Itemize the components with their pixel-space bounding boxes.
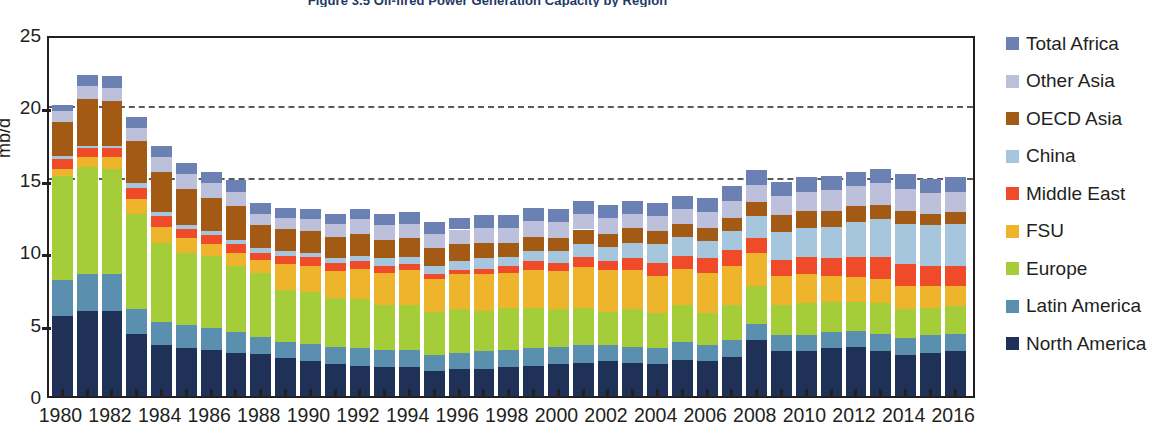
- x-tick-label: 1980: [39, 404, 82, 427]
- bar-2000[interactable]: [548, 34, 569, 396]
- bar-segment: [672, 269, 693, 305]
- bar-segment: [846, 206, 867, 222]
- bar-1981[interactable]: [77, 34, 98, 396]
- bar-1996[interactable]: [449, 34, 470, 396]
- legend-item[interactable]: FSU: [1006, 213, 1158, 251]
- bar-2016[interactable]: [945, 34, 966, 396]
- bar-segment: [250, 203, 271, 213]
- bar-2008[interactable]: [746, 34, 767, 396]
- bar-segment: [771, 232, 792, 260]
- y-tick-label: 0: [0, 387, 41, 409]
- bar-segment: [697, 212, 718, 228]
- x-tick-label: 2014: [882, 404, 925, 427]
- bar-segment: [350, 256, 371, 262]
- bar-1995[interactable]: [424, 34, 445, 396]
- bar-1997[interactable]: [474, 34, 495, 396]
- x-tick-mark: [805, 389, 808, 398]
- legend-item[interactable]: OECD Asia: [1006, 100, 1158, 138]
- bar-1986[interactable]: [201, 34, 222, 396]
- bar-segment: [226, 192, 247, 206]
- bar-1984[interactable]: [151, 34, 172, 396]
- bar-segment: [722, 250, 743, 266]
- bar-1990[interactable]: [300, 34, 321, 396]
- bar-2014[interactable]: [895, 34, 916, 396]
- bar-segment: [697, 258, 718, 272]
- bar-2004[interactable]: [647, 34, 668, 396]
- bar-segment: [350, 348, 371, 365]
- bar-segment: [895, 309, 916, 338]
- bar-1988[interactable]: [250, 34, 271, 396]
- bar-segment: [771, 260, 792, 276]
- bar-2001[interactable]: [573, 34, 594, 396]
- bar-2013[interactable]: [870, 34, 891, 396]
- bar-segment: [598, 270, 619, 312]
- bar-segment: [449, 274, 470, 309]
- bar-1993[interactable]: [374, 34, 395, 396]
- bar-segment: [920, 179, 941, 193]
- bar-segment: [647, 203, 668, 216]
- bar-segment: [226, 180, 247, 192]
- y-tick-mark: [42, 182, 51, 185]
- bar-segment: [548, 263, 569, 272]
- bar-1992[interactable]: [350, 34, 371, 396]
- x-tick-mark: [110, 389, 113, 398]
- bar-2011[interactable]: [821, 34, 842, 396]
- bar-segment: [771, 276, 792, 305]
- bar-1994[interactable]: [399, 34, 420, 396]
- legend-item[interactable]: Latin America: [1006, 288, 1158, 326]
- legend-item[interactable]: Middle East: [1006, 175, 1158, 213]
- bar-2002[interactable]: [598, 34, 619, 396]
- bar-segment: [523, 308, 544, 349]
- bar-1998[interactable]: [498, 34, 519, 396]
- bar-2015[interactable]: [920, 34, 941, 396]
- bar-2006[interactable]: [697, 34, 718, 396]
- bar-segment: [201, 244, 222, 256]
- bar-segment: [325, 224, 346, 237]
- legend-item[interactable]: Europe: [1006, 250, 1158, 288]
- bar-segment: [300, 253, 321, 257]
- bar-segment: [350, 219, 371, 233]
- bar-segment: [796, 211, 817, 228]
- x-tick-mark: [482, 389, 485, 398]
- x-tick-mark: [433, 389, 436, 398]
- bar-segment: [151, 243, 172, 323]
- bar-2009[interactable]: [771, 34, 792, 396]
- bar-segment: [325, 258, 346, 262]
- bar-segment: [598, 234, 619, 247]
- bar-segment: [746, 185, 767, 202]
- bar-segment: [622, 270, 643, 309]
- bar-1980[interactable]: [52, 34, 73, 396]
- bar-2003[interactable]: [622, 34, 643, 396]
- bar-1983[interactable]: [126, 34, 147, 396]
- legend-item[interactable]: Other Asia: [1006, 63, 1158, 101]
- bar-1999[interactable]: [523, 34, 544, 396]
- bar-segment: [102, 169, 123, 275]
- y-tick-label: 5: [0, 315, 41, 337]
- bar-segment: [474, 215, 495, 228]
- x-tick-mark: [383, 389, 386, 398]
- bar-1989[interactable]: [275, 34, 296, 396]
- bar-2005[interactable]: [672, 34, 693, 396]
- legend-item[interactable]: North America: [1006, 325, 1158, 363]
- legend-item[interactable]: China: [1006, 138, 1158, 176]
- bar-1987[interactable]: [226, 34, 247, 396]
- bar-segment: [77, 75, 98, 87]
- bar-segment: [796, 303, 817, 335]
- bar-1985[interactable]: [176, 34, 197, 396]
- bar-segment: [399, 350, 420, 367]
- bar-segment: [945, 192, 966, 212]
- bar-2007[interactable]: [722, 34, 743, 396]
- bar-segment: [722, 218, 743, 231]
- bar-segment: [374, 258, 395, 265]
- bar-2010[interactable]: [796, 34, 817, 396]
- bar-segment: [895, 189, 916, 211]
- x-tick-mark: [730, 389, 733, 398]
- legend-item[interactable]: Total Africa: [1006, 25, 1158, 63]
- bar-segment: [275, 256, 296, 265]
- legend-swatch-icon: [1006, 262, 1019, 275]
- bar-1982[interactable]: [102, 34, 123, 396]
- bar-1991[interactable]: [325, 34, 346, 396]
- bar-2012[interactable]: [846, 34, 867, 396]
- x-tick-mark: [929, 389, 932, 398]
- bar-segment: [498, 266, 519, 273]
